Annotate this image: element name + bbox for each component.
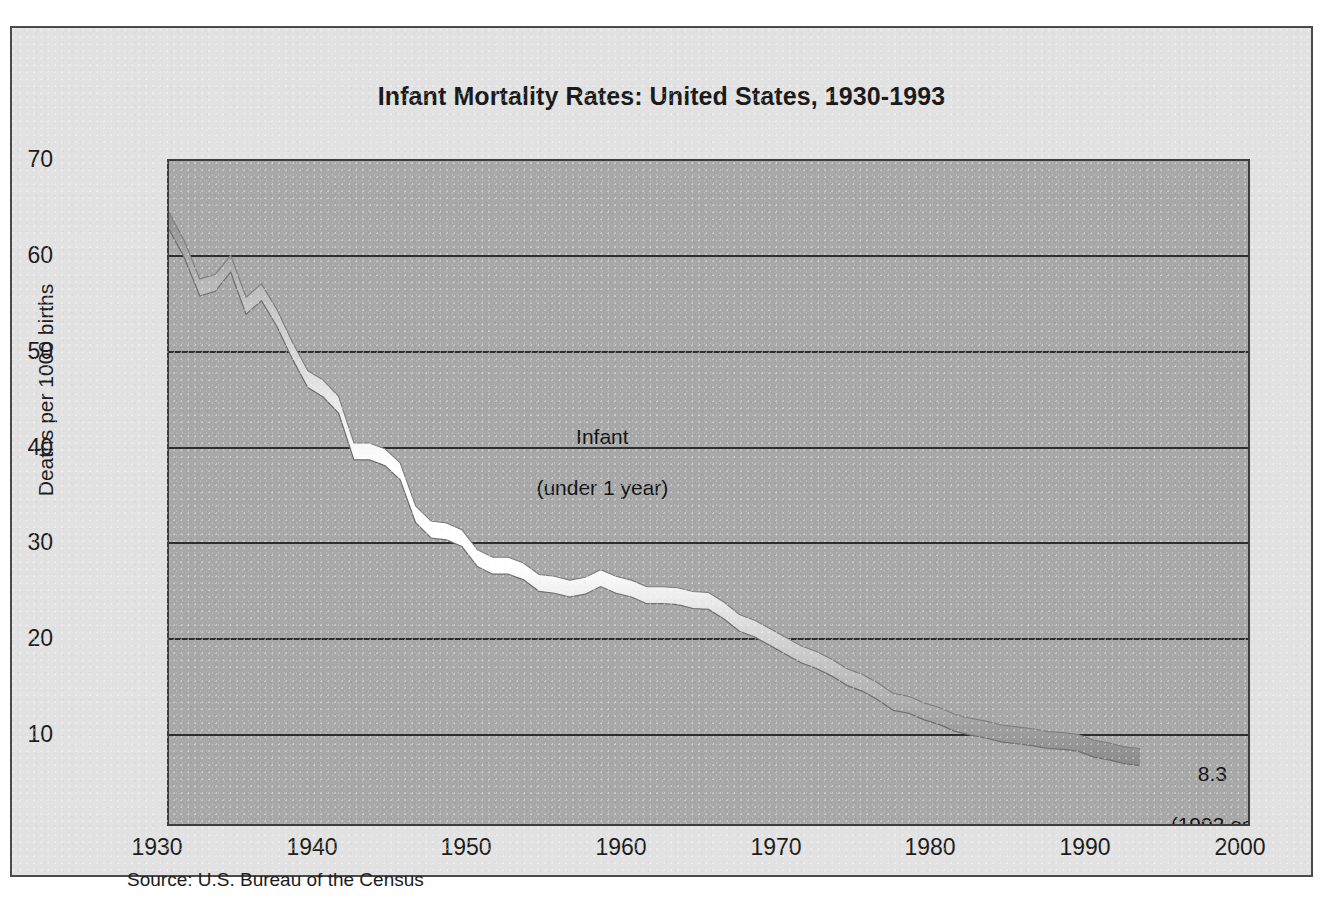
x-tick-1990: 1990	[1030, 834, 1140, 861]
plot-area: Infant (under 1 year) 8.3 (1993 est.)	[167, 159, 1250, 826]
y-tick-70: 70	[0, 146, 53, 173]
x-tick-1970: 1970	[721, 834, 831, 861]
y-tick-10: 10	[0, 721, 53, 748]
y-tick-40: 40	[0, 434, 53, 461]
series-annotation-line1: Infant	[576, 425, 629, 448]
chart-plate: Infant Mortality Rates: United States, 1…	[10, 26, 1313, 877]
x-tick-1960: 1960	[566, 834, 676, 861]
endpoint-value: 8.3	[1198, 762, 1227, 785]
endpoint-annotation: 8.3 (1993 est.)	[1124, 735, 1250, 826]
series-infant-mortality	[169, 161, 1248, 824]
y-tick-60: 60	[0, 242, 53, 269]
y-axis-label: Deaths per 1000 births	[34, 260, 58, 520]
source-note: Source: U.S. Bureau of the Census	[127, 869, 424, 891]
series-annotation: Infant (under 1 year)	[469, 398, 689, 526]
x-tick-1950: 1950	[411, 834, 521, 861]
chart-figure: Infant Mortality Rates: United States, 1…	[0, 0, 1332, 903]
page-title: Infant Mortality Rates: United States, 1…	[12, 82, 1311, 111]
x-tick-1980: 1980	[875, 834, 985, 861]
x-tick-1940: 1940	[257, 834, 367, 861]
y-tick-20: 20	[0, 625, 53, 652]
y-tick-30: 30	[0, 529, 53, 556]
series-annotation-line2: (under 1 year)	[536, 476, 668, 499]
endpoint-note: (1993 est.)	[1171, 813, 1250, 826]
x-tick-2000: 2000	[1185, 834, 1295, 861]
y-tick-50: 50	[0, 338, 53, 365]
x-tick-1930: 1930	[102, 834, 212, 861]
